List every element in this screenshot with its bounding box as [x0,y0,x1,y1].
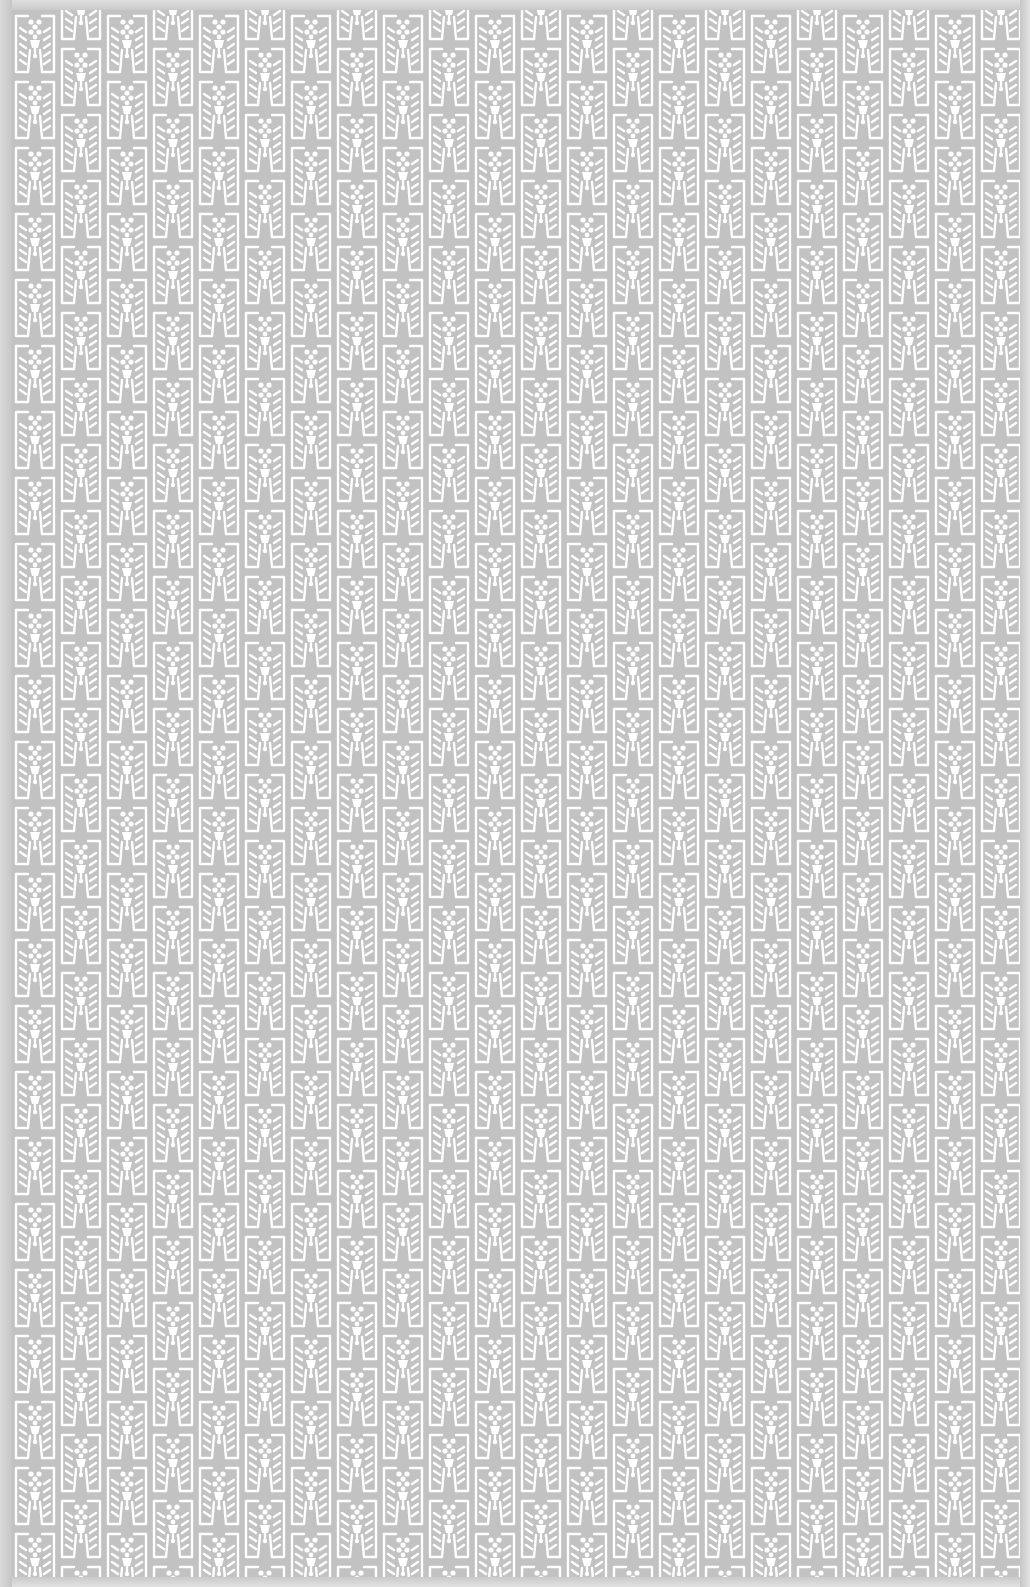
pattern-motif [472,1198,518,1264]
bird-motif-icon [518,505,564,571]
bird-motif-icon [426,505,472,571]
bird-motif-icon [564,142,610,208]
pattern-motif [656,1198,702,1264]
bird-motif-icon [472,1396,518,1462]
bird-motif-icon [104,1264,150,1330]
pattern-motif [242,1561,288,1577]
bird-motif-icon [656,142,702,208]
pattern-motif [58,835,104,901]
pattern-motif [978,703,1020,769]
pattern-motif [794,637,840,703]
pattern-motif [702,1495,748,1561]
pattern-column [794,10,840,1577]
pattern-motif [104,1264,150,1330]
bird-motif-icon [518,835,564,901]
pattern-motif [196,1528,242,1577]
bird-motif-icon [12,1000,58,1066]
pattern-motif [794,1297,840,1363]
bird-motif-icon [702,43,748,109]
bird-motif-icon [702,1099,748,1165]
pattern-column [426,10,472,1577]
bird-motif-icon [886,1363,932,1429]
bird-motif-icon [978,1231,1020,1297]
pattern-motif [12,736,58,802]
pattern-motif [748,1330,794,1396]
bird-motif-icon [104,472,150,538]
pattern-motif [380,406,426,472]
bird-motif-icon [610,703,656,769]
bird-motif-icon [242,1363,288,1429]
bird-motif-icon [104,208,150,274]
pattern-motif [518,1231,564,1297]
pattern-motif [610,175,656,241]
bird-motif-icon [426,703,472,769]
pattern-motif [104,274,150,340]
bird-motif-icon [196,472,242,538]
pattern-motif [288,1264,334,1330]
pattern-motif [840,1396,886,1462]
pattern-motif [748,208,794,274]
pattern-motif [518,1165,564,1231]
pattern-motif [702,43,748,109]
pattern-motif [150,967,196,1033]
pattern-motif [288,1066,334,1132]
bird-motif-icon [840,868,886,934]
bird-motif-icon [702,439,748,505]
pattern-motif [656,1528,702,1577]
pattern-motif [426,835,472,901]
bird-motif-icon [58,109,104,175]
pattern-motif [150,43,196,109]
bird-motif-icon [104,1132,150,1198]
pattern-motif [702,1297,748,1363]
pattern-motif [426,1033,472,1099]
pattern-motif [748,1198,794,1264]
bird-motif-icon [242,1429,288,1495]
pattern-motif [104,406,150,472]
bird-motif-icon [150,1297,196,1363]
pattern-motif [978,769,1020,835]
bird-motif-icon [564,1132,610,1198]
pattern-motif [380,934,426,1000]
bird-motif-icon [564,274,610,340]
pattern-motif [610,241,656,307]
bird-motif-icon [334,1495,380,1561]
pattern-motif [978,175,1020,241]
bird-motif-icon [656,604,702,670]
pattern-motif [518,1033,564,1099]
bird-motif-icon [794,109,840,175]
pattern-motif [334,1495,380,1561]
pattern-motif [426,967,472,1033]
bird-motif-icon [886,703,932,769]
pattern-motif [472,1396,518,1462]
pattern-motif [610,1495,656,1561]
bird-motif-icon [334,571,380,637]
bird-motif-icon [380,736,426,802]
pattern-motif [518,307,564,373]
pattern-motif [886,1099,932,1165]
bird-motif-icon [886,373,932,439]
pattern-motif [610,1165,656,1231]
pattern-motif [12,406,58,472]
pattern-motif [978,571,1020,637]
pattern-motif [656,670,702,736]
bird-motif-icon [932,1000,978,1066]
bird-motif-icon [978,109,1020,175]
bird-motif-icon [564,1066,610,1132]
pattern-motif [886,769,932,835]
pattern-column [472,10,518,1577]
pattern-motif [242,43,288,109]
pattern-motif [426,10,472,43]
bird-motif-icon [978,1429,1020,1495]
pattern-motif [564,868,610,934]
pattern-motif [426,1297,472,1363]
bird-motif-icon [150,571,196,637]
bird-motif-icon [104,604,150,670]
bird-motif-icon [426,637,472,703]
bird-motif-icon [978,967,1020,1033]
bird-motif-icon [840,208,886,274]
pattern-motif [288,1528,334,1577]
bird-motif-icon [58,571,104,637]
pattern-motif [564,208,610,274]
bird-motif-icon [840,1462,886,1528]
pattern-motif [794,1231,840,1297]
